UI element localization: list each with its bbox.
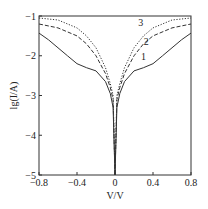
y-tick-label: −2 xyxy=(25,50,36,61)
y-axis-label: lg(I/A) xyxy=(8,82,20,110)
x-tick-label: 0.8 xyxy=(185,177,198,188)
x-axis-label: V/V xyxy=(106,190,124,201)
curve-label-2: 2 xyxy=(144,36,149,47)
iv-curve-plot: −0.8−0.400.40.8−1−2−3−4−5V/Vlg(I/A)123 xyxy=(0,0,208,209)
chart: −0.8−0.400.40.8−1−2−3−4−5V/Vlg(I/A)123 xyxy=(0,0,208,209)
x-tick-label: 0 xyxy=(113,177,118,188)
x-tick-label: −0.4 xyxy=(68,177,86,188)
y-tick-label: −5 xyxy=(25,170,36,181)
series-3-line xyxy=(39,18,191,175)
x-tick-label: 0.4 xyxy=(147,177,160,188)
y-tick-label: −4 xyxy=(25,130,36,141)
y-tick-label: −1 xyxy=(25,11,36,22)
series-1-line xyxy=(39,33,191,175)
y-tick-label: −3 xyxy=(25,90,36,101)
curve-label-3: 3 xyxy=(138,17,143,28)
curve-label-1: 1 xyxy=(141,51,146,62)
series-2-line xyxy=(39,24,191,175)
plot-frame xyxy=(39,16,191,175)
